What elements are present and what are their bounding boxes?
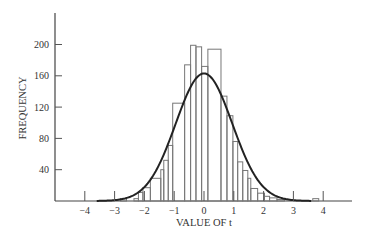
axes — [55, 13, 352, 201]
x-tick-label: 0 — [202, 205, 207, 216]
histogram-bar — [196, 47, 202, 201]
histogram-bar — [264, 196, 269, 201]
histogram-bar — [191, 45, 196, 201]
histogram-series — [121, 45, 319, 201]
x-tick-label: −2 — [139, 205, 150, 216]
histogram-bar — [277, 199, 284, 201]
y-tick-label: 80 — [39, 133, 49, 144]
y-tick-label: 200 — [34, 39, 49, 50]
histogram-bar — [202, 66, 208, 201]
x-tick-label: 2 — [261, 205, 266, 216]
histogram-bar — [221, 96, 227, 201]
y-axis-ticks: 4080120160200 — [34, 39, 62, 175]
histogram-bar — [150, 178, 160, 201]
histogram-bar — [227, 116, 233, 201]
x-tick-label: 1 — [231, 205, 236, 216]
x-tick-label: 4 — [321, 205, 326, 216]
histogram-bar — [251, 188, 258, 201]
histogram-bar — [243, 170, 248, 201]
x-axis-label: VALUE OF t — [176, 217, 232, 228]
x-tick-label: −1 — [169, 205, 180, 216]
y-tick-label: 160 — [34, 70, 49, 81]
normal-curve-series — [97, 73, 312, 200]
x-tick-label: −4 — [79, 205, 90, 216]
histogram-bar — [270, 198, 277, 201]
y-tick-label: 40 — [39, 164, 49, 175]
x-tick-label: 3 — [291, 205, 296, 216]
histogram-bar — [134, 199, 138, 201]
normal-curve-line — [97, 73, 312, 200]
histogram-bar — [238, 162, 243, 201]
x-axis-ticks: −4−3−2−101234 — [79, 191, 325, 216]
y-axis-label: FREQUENCY — [17, 76, 28, 139]
histogram-bar — [185, 65, 191, 201]
histogram-bar — [168, 145, 172, 201]
x-tick-label: −3 — [109, 205, 120, 216]
histogram-bar — [208, 49, 221, 201]
t-distribution-chart: −4−3−2−101234 4080120160200 VALUE OF t F… — [0, 0, 371, 240]
y-tick-label: 120 — [34, 102, 49, 113]
histogram-bar — [164, 160, 168, 201]
histogram-bar — [138, 192, 142, 201]
histogram-bar — [313, 199, 319, 201]
